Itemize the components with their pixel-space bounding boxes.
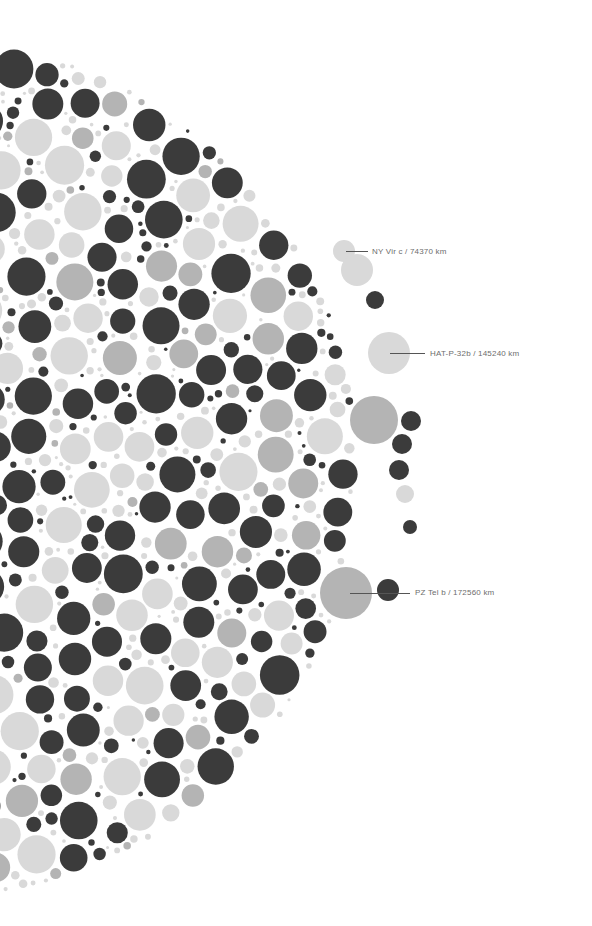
planet-circle <box>203 212 220 229</box>
planet-circle <box>216 613 222 619</box>
planet-circle <box>3 132 12 141</box>
planet-circle <box>7 402 13 408</box>
planet-circle <box>74 472 110 508</box>
planet-circle <box>12 778 16 782</box>
planet-circle <box>200 462 216 478</box>
planet-circle <box>292 515 298 521</box>
planet-circle <box>125 432 155 462</box>
planet-circle <box>248 608 261 621</box>
planet-circle <box>295 598 316 619</box>
planet-circle <box>204 679 209 684</box>
label-pz-tel-b: PZ Tel b / 172560 km <box>415 588 494 598</box>
planet-circle <box>42 557 69 584</box>
planet-circle <box>232 672 257 697</box>
planet-circle <box>97 279 105 287</box>
planet-circle <box>287 553 321 587</box>
planet-circle <box>130 427 134 431</box>
planet-circle <box>168 564 175 571</box>
planet-circle <box>148 346 154 352</box>
planet-circle <box>228 575 258 605</box>
planet-circle <box>8 308 16 316</box>
planet-circle <box>159 456 195 492</box>
planet-circle <box>145 201 183 239</box>
planet-circle <box>145 561 158 574</box>
planet-circle <box>94 379 119 404</box>
planet-circle <box>162 704 184 726</box>
planet-circle <box>327 313 331 317</box>
planet-circle <box>87 243 116 272</box>
planet-circle <box>139 758 148 767</box>
planet-circle <box>299 291 306 298</box>
planet-circle <box>59 713 65 719</box>
planet-circle <box>220 438 225 443</box>
planet-circle <box>328 459 357 488</box>
planet-circle <box>83 427 90 434</box>
planet-circle <box>186 129 190 133</box>
planet-circle <box>317 329 325 337</box>
planet-circle <box>170 186 175 191</box>
planet-circle <box>71 89 100 118</box>
planet-circle <box>175 577 178 580</box>
planet-circle <box>87 338 94 345</box>
planet-circle <box>6 785 38 817</box>
planet-circle <box>181 562 188 569</box>
planet-circle <box>2 656 15 669</box>
planet-circle <box>258 437 294 473</box>
planet-circle <box>307 418 343 454</box>
planet-circle <box>124 799 156 831</box>
planet-circle <box>143 307 180 344</box>
planet-circle <box>253 323 284 354</box>
planet-circle <box>139 287 158 306</box>
planet-circle <box>316 514 321 519</box>
planet-circle <box>142 579 173 610</box>
planet-circle <box>200 717 207 724</box>
planet-circle <box>221 568 231 578</box>
planet-circle <box>138 99 144 105</box>
planet-circle <box>12 411 16 415</box>
planet-circle <box>46 252 59 265</box>
planet-circle <box>284 302 313 331</box>
planet-circle <box>126 644 132 650</box>
planet-circle <box>273 478 286 491</box>
planet-circle <box>178 262 202 286</box>
planet-circle <box>79 185 84 190</box>
planet-circle <box>215 390 222 397</box>
planet-circle <box>171 610 175 614</box>
planet-circle <box>11 871 20 880</box>
planet-circle <box>81 534 98 551</box>
planet-circle <box>27 159 34 166</box>
planet-circle <box>72 127 94 149</box>
planet-circle <box>208 493 240 525</box>
planet-circle <box>89 461 97 469</box>
planet-circle <box>207 395 213 401</box>
planet-circle <box>130 333 138 341</box>
planet-circle <box>95 131 101 137</box>
planet-circle <box>23 92 26 95</box>
planet-circle <box>55 586 68 599</box>
planet-circle <box>80 374 84 378</box>
planet-circle <box>155 417 160 422</box>
planet-circle <box>49 419 63 433</box>
planet-circle <box>215 486 220 491</box>
planet-circle <box>127 157 131 161</box>
planet-circle <box>137 374 176 413</box>
planet-circle <box>94 422 124 452</box>
leader-line-ny-vir-c <box>346 251 368 252</box>
planet-circle <box>26 685 54 713</box>
planet-circle <box>146 355 161 370</box>
planet-circle <box>93 848 105 860</box>
planet-circle <box>157 448 167 458</box>
planet-circle <box>130 835 137 842</box>
planet-circle <box>140 623 171 654</box>
planet-circle <box>243 190 255 202</box>
planet-circle <box>366 291 384 309</box>
planet-circle <box>60 434 91 465</box>
planet-circle <box>158 615 161 618</box>
planet-circle <box>28 88 35 95</box>
planet-circle <box>51 440 58 447</box>
planet-circle <box>69 116 77 124</box>
planet-circle <box>36 505 47 516</box>
planet-circle <box>60 79 68 87</box>
planet-circle <box>128 301 133 306</box>
planet-circle <box>65 307 70 312</box>
